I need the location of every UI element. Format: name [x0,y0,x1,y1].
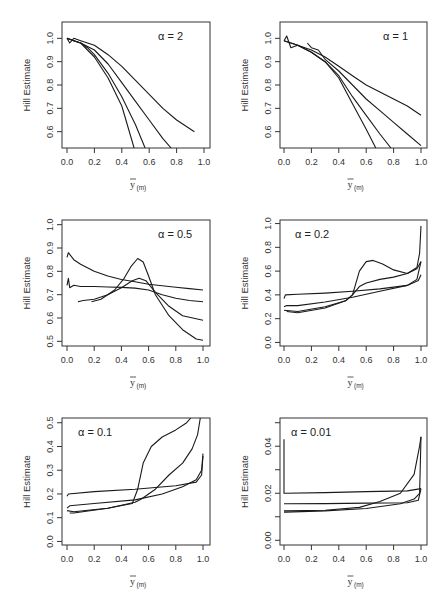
x-tick-label: 0.6 [142,554,155,564]
series-line-curve-2 [284,262,421,307]
x-axis-label-subscript: (m) [137,184,147,192]
alpha-annotation: α = 0.1 [78,426,112,438]
y-tick-label: 0.6 [45,312,55,325]
x-tick-label: 1.0 [415,157,428,167]
x-tick-label: 0.2 [305,157,318,167]
y-axis: 0.60.70.80.91.0 [263,32,280,138]
y-axis: 0.60.70.80.91.0 [45,32,62,138]
y-axis-label: Hill Estimate [239,59,250,112]
x-axis-label: y [348,179,353,190]
y-tick-label: 0.3 [45,464,55,477]
series-line-curve-4 [92,259,204,341]
series-line-curve-1 [67,38,194,131]
x-tick-label: 0.6 [142,355,155,365]
x-axis: 0.00.20.40.60.81.0 [61,148,211,167]
x-axis-label-subscript: (m) [137,382,147,390]
x-tick-label: 1.0 [197,554,210,564]
x-tick-label: 0.2 [305,355,318,365]
y-tick-label: 0.6 [263,125,273,138]
x-tick-label: 0.0 [61,157,74,167]
y-tick-label: 0.0 [45,535,55,548]
x-axis: 0.00.20.40.60.81.0 [278,346,428,365]
y-tick-label: 0.8 [263,79,273,92]
y-tick-label: 0.4 [45,440,55,453]
x-axis-label: y [348,377,353,388]
y-axis: 0.00.10.20.30.40.5 [45,416,62,547]
x-tick-label: 0.6 [360,157,373,167]
y-tick-label: 1.0 [45,218,55,231]
y-tick-label: 0.00 [263,532,273,550]
x-tick-label: 0.4 [115,554,128,564]
y-tick-label: 0.7 [263,102,273,115]
y-tick-label: 0.1 [45,511,55,524]
x-tick-label: 0.6 [143,157,156,167]
y-tick-label: 1.0 [45,32,55,45]
x-tick-label: 1.0 [415,355,428,365]
series-line-curve-3 [284,437,421,511]
x-tick-label: 0.8 [170,554,183,564]
y-tick-label: 0.2 [263,312,273,325]
alpha-annotation: α = 1 [383,30,408,42]
y-tick-label: 0.9 [263,55,273,68]
x-tick-label: 0.2 [88,554,101,564]
chart-panel-bottom-right: 0.00.20.40.60.81.00.000.020.04Hill Estim… [239,418,427,589]
y-tick-label: 0.4 [263,289,273,302]
series-line-curve-1 [67,253,203,290]
y-axis: 0.00.20.40.60.81.0 [263,217,280,348]
y-tick-label: 0.04 [263,437,273,455]
x-axis: 0.00.20.40.60.81.0 [278,545,428,564]
x-axis-label: y [130,576,135,587]
alpha-annotation: α = 0.01 [291,426,331,438]
y-axis-label: Hill Estimate [239,455,250,508]
series-group [67,38,194,148]
x-tick-label: 0.0 [61,355,74,365]
plot-frame [62,22,210,148]
x-tick-label: 0.2 [88,157,101,167]
y-axis: 0.000.020.04 [263,423,280,549]
series-line-curve-4 [284,437,421,512]
alpha-annotation: α = 0.2 [295,228,329,240]
x-tick-label: 1.0 [197,355,210,365]
x-tick-label: 0.8 [170,355,183,365]
x-tick-label: 0.4 [115,355,128,365]
x-tick-label: 0.0 [61,554,74,564]
y-tick-label: 1.0 [263,32,273,45]
series-line-curve-2 [67,38,171,148]
y-tick-label: 0.8 [45,265,55,278]
chart-panel-top-right: 0.00.20.40.60.81.00.60.70.80.91.0Hill Es… [239,22,427,192]
x-tick-label: 0.4 [333,355,346,365]
x-axis-label-subscript: (m) [354,581,364,589]
x-tick-label: 1.0 [415,554,428,564]
x-tick-label: 0.0 [278,554,291,564]
y-axis-label: Hill Estimate [21,257,32,310]
x-tick-label: 0.6 [360,355,373,365]
x-tick-label: 0.8 [387,157,400,167]
x-tick-label: 1.0 [198,157,211,167]
x-tick-label: 0.4 [333,157,346,167]
x-axis-label-subscript: (m) [354,184,364,192]
chart-grid: 0.00.20.40.60.81.00.60.70.80.91.0Hill Es… [0,0,445,608]
y-tick-label: 0.6 [263,265,273,278]
series-line-curve-2 [67,454,203,509]
x-axis-label: y [130,377,135,388]
series-line-curve-1 [67,456,203,496]
alpha-annotation: α = 2 [158,30,183,42]
chart-panel-middle-right: 0.00.20.40.60.81.00.00.20.40.60.81.0Hill… [239,217,427,390]
y-tick-label: 0.7 [45,288,55,301]
y-tick-label: 0.02 [263,484,273,502]
y-tick-label: 0.7 [45,102,55,115]
y-tick-label: 0.9 [45,242,55,255]
x-tick-label: 0.4 [333,554,346,564]
chart-panel-bottom-left: 0.00.20.40.60.81.00.00.10.20.30.40.5Hill… [21,416,210,589]
x-tick-label: 0.0 [278,157,291,167]
x-axis-label-subscript: (m) [354,382,364,390]
y-tick-label: 0.5 [45,416,55,429]
x-tick-label: 0.8 [170,157,183,167]
x-tick-label: 0.2 [88,355,101,365]
x-axis-label-subscript: (m) [137,581,147,589]
x-axis: 0.00.20.40.60.81.0 [61,346,210,365]
x-tick-label: 0.8 [387,554,400,564]
series-line-curve-4 [67,38,134,148]
chart-panel-top-left: 0.00.20.40.60.81.00.60.70.80.91.0Hill Es… [21,22,210,192]
y-tick-label: 0.5 [45,335,55,348]
